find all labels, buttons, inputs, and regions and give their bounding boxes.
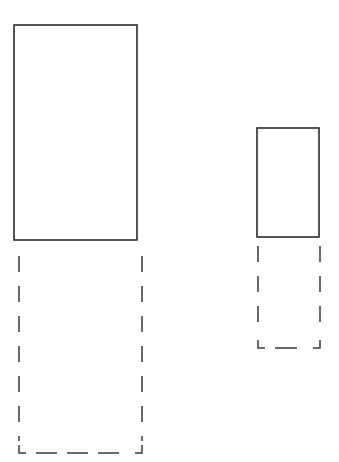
diagram-canvas [0, 0, 339, 462]
large-solid-rectangle [14, 25, 137, 240]
small-dashed-rectangle [258, 246, 320, 348]
small-shape-group [257, 128, 320, 348]
small-solid-rectangle [257, 128, 319, 237]
large-dashed-rectangle [19, 256, 142, 453]
large-shape-group [14, 25, 142, 453]
